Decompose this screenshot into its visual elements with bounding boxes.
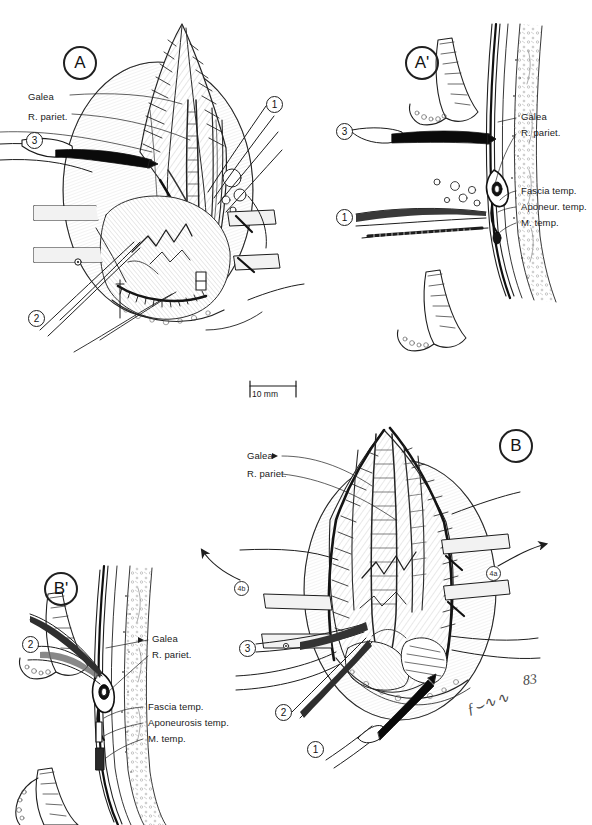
callout-1-panel-a-prime: 1 <box>336 209 353 226</box>
panel-letter-a-prime: A' <box>405 46 439 80</box>
label-r-pariet-panel-a: R. pariet. <box>28 111 68 122</box>
label-galea-panel-b: Galea <box>247 450 273 461</box>
label-galea-panel-a: Galea <box>28 91 54 102</box>
callout-2-panel-b-prime: 2 <box>22 636 39 653</box>
label-m-temp-panel-a-prime: M. temp. <box>521 217 559 228</box>
callout-1-panel-a: 1 <box>266 96 283 113</box>
label-m-temp-panel-b-prime: M. temp. <box>148 733 186 744</box>
label-fascia-temp-panel-a-prime: Fascia temp. <box>521 185 577 196</box>
label-aponeur-temp-panel-a-prime: Aponeur. temp. <box>521 201 587 212</box>
callout-2-panel-a: 2 <box>28 310 45 327</box>
callout-3-panel-a: 3 <box>26 132 43 149</box>
callout-2-panel-b: 2 <box>275 704 292 721</box>
label-r-pariet-panel-a-prime: R. pariet. <box>521 127 561 138</box>
label-r-pariet-panel-b: R. pariet. <box>247 468 287 479</box>
retraction-marker-4a: 4a <box>486 566 501 581</box>
panel-letter-a: A <box>63 46 97 80</box>
panel-letter-b-prime: B' <box>44 572 78 606</box>
panel-a-drawing <box>0 24 304 352</box>
label-r-pariet-panel-b-prime: R. pariet. <box>152 649 192 660</box>
label-galea-panel-a-prime: Galea <box>521 111 547 122</box>
label-galea-panel-b-prime: Galea <box>152 633 178 644</box>
callout-3-panel-a-prime: 3 <box>336 123 353 140</box>
anatomical-plate: A A' B B' Galea R. pariet. 3 1 2 Galea R… <box>0 0 592 825</box>
panel-b-drawing <box>202 428 546 768</box>
callout-3-panel-b: 3 <box>239 640 256 657</box>
retraction-marker-4b: 4b <box>234 581 249 596</box>
scale-bar-label: 10 mm <box>252 389 278 399</box>
callout-1-panel-b: 1 <box>307 741 324 758</box>
label-aponeurosis-temp-panel-b-prime: Aponeurosis temp. <box>148 717 229 728</box>
artist-signature-year: 83 <box>522 671 538 689</box>
panel-letter-b: B <box>499 429 533 463</box>
label-fascia-temp-panel-b-prime: Fascia temp. <box>148 701 204 712</box>
panel-b-prime-drawing <box>16 566 166 825</box>
